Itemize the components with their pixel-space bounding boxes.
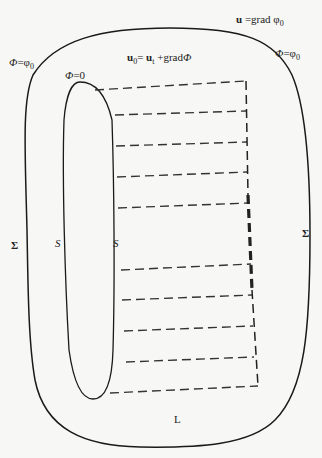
label-phi-phi0-right: Φ=φ0 <box>275 48 300 62</box>
label-L: L <box>174 414 181 425</box>
label-sigma-left: Σ <box>11 240 18 251</box>
label-phi-zero: Φ=0 <box>65 70 85 81</box>
inner-surface-s <box>63 82 114 399</box>
label-s-left: S <box>55 238 61 249</box>
outer-surface-sigma <box>25 28 310 447</box>
vertical-dashed-edge <box>246 81 258 386</box>
label-u0-equation: u0= ut +gradΦ <box>127 52 191 66</box>
diagram-canvas <box>0 0 322 458</box>
label-u-grad-phi0: u =grad φ0 <box>236 14 284 28</box>
dashed-lines <box>95 81 258 393</box>
label-s-right: S <box>113 238 119 249</box>
label-sigma-right: Σ <box>302 228 309 239</box>
label-phi-phi0-left: Φ=φ0 <box>9 57 34 71</box>
